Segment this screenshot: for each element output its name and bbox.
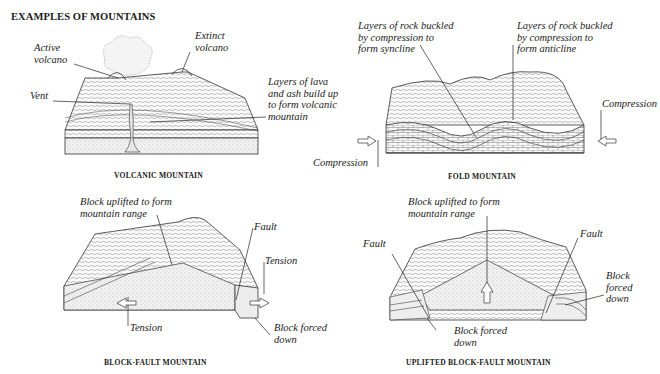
caption-fold: FOLD MOUNTAIN — [448, 172, 516, 181]
label-compression-right: Compression — [602, 98, 657, 110]
uplifted-block-fault-drawing — [390, 230, 586, 320]
caption-volcanic: VOLCANIC MOUNTAIN — [114, 171, 203, 180]
label-fault: Fault — [254, 221, 277, 233]
label-fault-right: Fault — [580, 228, 603, 240]
label-active-volcano: Active volcano — [34, 42, 67, 65]
label-tension-right: Tension — [265, 255, 297, 267]
label-block-forced-down: Block forced down — [274, 322, 327, 345]
label-anticline: Layers of rock buckled by compression to… — [517, 20, 613, 55]
compression-arrow-left — [358, 136, 376, 146]
label-forced-down-bottom: Block forced down — [454, 325, 507, 348]
label-tension-left: Tension — [130, 322, 162, 334]
diagram-artwork — [0, 0, 660, 374]
label-block-uplifted: Block uplifted to form mountain range — [80, 196, 172, 219]
label-forced-down-right: Block forced down — [606, 270, 632, 305]
label-vent: Vent — [30, 90, 48, 102]
label-fault-left: Fault — [363, 238, 386, 250]
label-uplifted-block: Block uplifted to form mountain range — [408, 196, 500, 219]
caption-block-fault: BLOCK-FAULT MOUNTAIN — [104, 358, 207, 367]
label-lava-layers: Layers of lava and ash build up to form … — [268, 76, 338, 122]
label-compression-left: Compression — [313, 157, 368, 169]
fold-mountain-drawing — [386, 72, 584, 153]
volcanic-mountain-drawing — [65, 36, 258, 154]
caption-uplifted-block-fault: UPLIFTED BLOCK-FAULT MOUNTAIN — [406, 358, 551, 367]
label-extinct-volcano: Extinct volcano — [195, 30, 228, 53]
label-syncline: Layers of rock buckled by compression to… — [358, 20, 454, 55]
block-fault-mountain-drawing — [64, 217, 258, 318]
